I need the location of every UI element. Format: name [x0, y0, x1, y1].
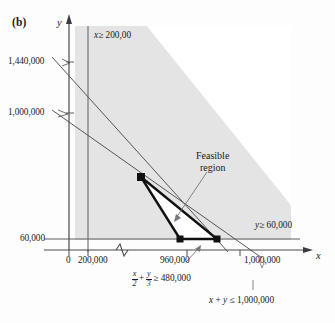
total-constraint-rhs: ≤ 1,000,000: [230, 295, 275, 305]
vertex-marker-bottom-left: [177, 236, 184, 243]
fraction-numerator-x: x: [132, 270, 138, 279]
y-label-pointer-1000000: [58, 110, 68, 117]
x-tick-label-origin: 0: [66, 256, 71, 266]
y-axis-arrowhead: [66, 14, 72, 24]
x-tick-label-200000: 200,000: [78, 256, 108, 266]
x-axis-arrowhead: [303, 247, 313, 253]
total-constraint-y: y: [223, 295, 227, 305]
figure-panel-b: (b) y x 1,440,000 1,000,000 60,000 0 200…: [0, 0, 335, 323]
fraction-plus-operator: +: [139, 274, 144, 284]
fraction-numerator-y: y: [146, 270, 152, 279]
fraction-right-hand-side: ≥ 480,000: [153, 274, 191, 284]
y-axis-label: y: [57, 17, 62, 28]
total-constraint-x: x: [209, 295, 213, 305]
panel-tag: (b): [12, 16, 26, 28]
constraint-x-expression: ≥ 200,00: [98, 30, 131, 40]
x-tick-label-960000: 960,000: [160, 256, 190, 266]
constraint-label-total: x + y ≤ 1,000,000: [209, 296, 274, 306]
constraint-label-x: x≥ 200,00: [94, 31, 131, 41]
feasible-region-label-line1: Feasible: [196, 150, 229, 162]
y-tick-label-1000000: 1,000,000: [8, 108, 44, 118]
feasible-region-label-line2: region: [196, 162, 229, 174]
constraint-label-y: y≥ 60,000: [255, 221, 292, 231]
constraint-label-resource: x 2 + y 3 ≥ 480,000: [131, 270, 191, 288]
fraction-denominator-2: 2: [132, 280, 138, 289]
feasible-region-label: Feasible region: [196, 150, 229, 174]
fraction-x-over-2: x 2: [132, 270, 138, 288]
fraction-denominator-3: 3: [146, 280, 152, 289]
constraint-y-expression: ≥ 60,000: [259, 220, 292, 230]
total-constraint-plus: +: [215, 295, 220, 305]
x-tick-label-1000000: 1,000,000: [244, 256, 280, 266]
vertex-marker-top: [137, 173, 145, 181]
y-tick-label-1440000: 1,440,000: [8, 57, 44, 67]
vertex-marker-bottom-right: [214, 236, 221, 243]
y-tick-label-60000: 60,000: [20, 234, 45, 244]
x-axis-label: x: [316, 250, 321, 261]
fraction-y-over-3: y 3: [146, 270, 152, 288]
